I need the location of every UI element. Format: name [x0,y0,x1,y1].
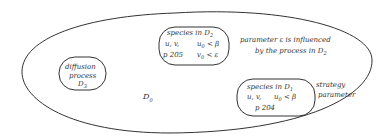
domain-D3-label: D3 [78,80,87,89]
outer-region-label: D0 [143,92,153,101]
species-D1-page-ref: p 204 [255,104,275,113]
species-D1-variables: u, v, [247,93,261,102]
species-D2-u0-condition: u0 < β [197,40,219,49]
strategy-label: strategy [316,81,345,90]
diagram-shapes [0,0,388,139]
species-D2-page-ref: p 205 [163,51,183,60]
species-D2-title: species in D2 [167,29,213,38]
diffusion-label: diffusion [65,63,96,72]
species-D2-v0-condition: v0 < ε [197,51,218,60]
parameter-label: parameter [318,91,355,100]
species-D1-u0-condition: u0 < β [274,93,296,102]
parameter-influence-line2: by the process in D2 [255,47,327,56]
species-D1-title: species in D1 [247,83,293,92]
parameter-influence-line1: parameter ε is influenced [240,36,331,45]
species-D2-variables: u, v, [165,40,179,49]
